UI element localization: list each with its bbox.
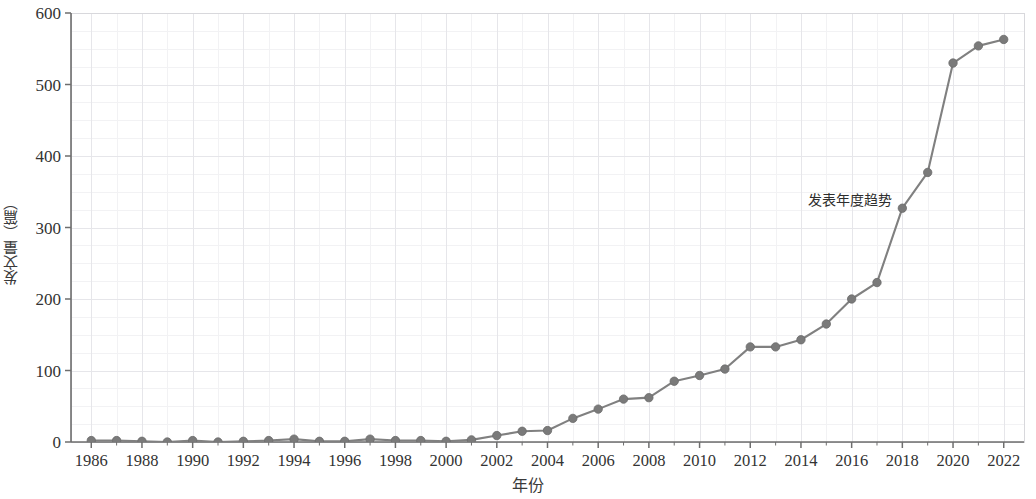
x-tick-label: 2000 [430, 451, 463, 470]
x-tick-label: 2018 [886, 451, 919, 470]
y-tick-label: 0 [53, 433, 62, 452]
plot-background [71, 13, 1024, 442]
data-point [569, 414, 577, 422]
trend-annotation-label: 发表年度趋势 [808, 192, 892, 208]
data-point [619, 395, 627, 403]
data-point [645, 393, 653, 401]
x-tick-label: 1986 [75, 451, 108, 470]
x-axis-title: 年份 [0, 472, 1036, 496]
x-tick-label: 1996 [328, 451, 361, 470]
x-axis-title-text: 年份 [512, 476, 544, 495]
x-tick-label: 2010 [683, 451, 716, 470]
x-tick-label: 1988 [125, 451, 158, 470]
data-point [746, 343, 754, 351]
data-point [873, 278, 881, 286]
data-point [543, 426, 551, 434]
x-tick-label: 2006 [582, 451, 615, 470]
y-tick-label: 100 [36, 362, 62, 381]
x-tick-label: 2016 [835, 451, 868, 470]
chart-plot-area: 0100200300400500600 19861988199019921994… [0, 0, 1036, 499]
data-point [695, 371, 703, 379]
x-tick-label: 2002 [480, 451, 513, 470]
data-point [847, 295, 855, 303]
data-point [771, 343, 779, 351]
data-point [1000, 35, 1008, 43]
y-tick-label: 600 [36, 4, 62, 23]
data-point [721, 365, 729, 373]
x-tick-label: 2012 [734, 451, 767, 470]
x-tick-label: 2022 [987, 451, 1020, 470]
data-point [518, 427, 526, 435]
x-tick-label: 1990 [176, 451, 209, 470]
x-tick-label: 1998 [379, 451, 412, 470]
data-point [493, 431, 501, 439]
x-tick-label: 1992 [227, 451, 260, 470]
data-point [898, 204, 906, 212]
data-point [797, 336, 805, 344]
x-tick-label: 2004 [531, 451, 564, 470]
x-axis-ticks: 1986198819901992199419961998200020022004… [75, 442, 1020, 470]
y-axis-ticks: 0100200300400500600 [36, 4, 72, 452]
y-tick-label: 400 [36, 147, 62, 166]
data-point [594, 405, 602, 413]
x-tick-label: 2014 [784, 451, 817, 470]
y-tick-label: 200 [36, 290, 62, 309]
data-point [670, 377, 678, 385]
x-tick-label: 2008 [632, 451, 665, 470]
publication-trend-chart: 发文量（篇） 0100200300400500600 1986198819901… [0, 0, 1036, 499]
x-tick-label: 2020 [937, 451, 970, 470]
x-tick-label: 1994 [278, 451, 311, 470]
data-point [974, 42, 982, 50]
data-point [822, 320, 830, 328]
y-tick-label: 300 [36, 219, 62, 238]
y-tick-label: 500 [36, 76, 62, 95]
data-point [949, 59, 957, 67]
data-point [923, 168, 931, 176]
